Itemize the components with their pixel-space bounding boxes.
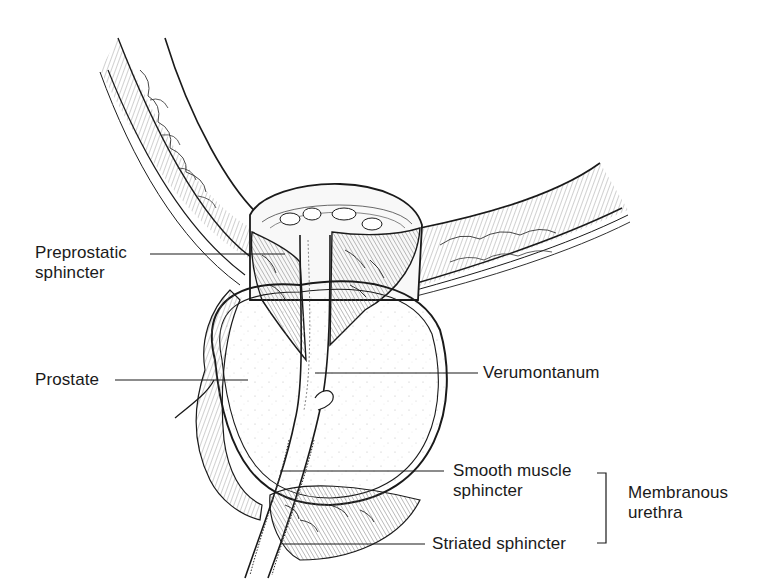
striated-sphincter-muscle [270,486,420,560]
label-membranous-urethra: Membranous urethra [628,483,728,523]
label-membranous-line1: Membranous [628,483,728,503]
label-striated-sphincter: Striated sphincter [432,534,566,554]
label-preprostatic-sphincter: Preprostatic sphincter [35,243,127,283]
bladder-wall-right [400,163,630,300]
label-prostate: Prostate [35,370,99,390]
membranous-urethra-bracket [597,473,606,543]
label-preprostatic-line2: sphincter [35,263,127,283]
label-smooth-muscle-sphincter: Smooth muscle sphincter [453,461,571,501]
label-preprostatic-line1: Preprostatic [35,243,127,263]
label-smooth-muscle-line2: sphincter [453,481,571,501]
label-membranous-line2: urethra [628,503,728,523]
anatomy-diagram: Preprostatic sphincter Prostate Verumont… [0,0,776,585]
label-smooth-muscle-line1: Smooth muscle [453,461,571,481]
label-verumontanum: Verumontanum [483,363,600,383]
